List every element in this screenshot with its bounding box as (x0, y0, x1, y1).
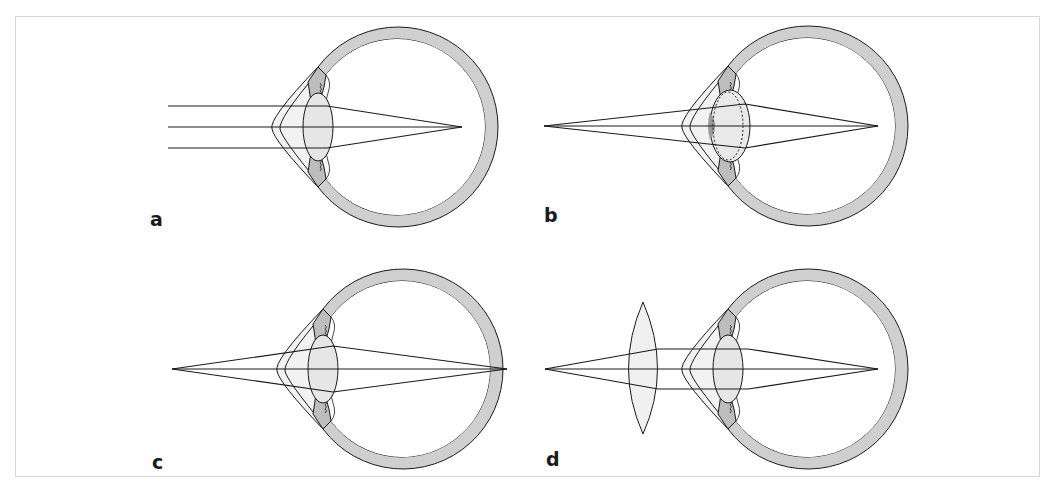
panel-b (544, 26, 908, 226)
panel-label-b: b (544, 206, 558, 225)
panel-label-d: d (546, 450, 560, 469)
panel-a (168, 27, 498, 227)
panel-label-c: c (152, 453, 163, 472)
panel-d (545, 269, 908, 469)
convex-corrective-lens (629, 302, 658, 434)
eye-refraction-diagram (0, 0, 1058, 489)
panel-c (172, 269, 507, 469)
panel-label-a: a (150, 210, 163, 229)
